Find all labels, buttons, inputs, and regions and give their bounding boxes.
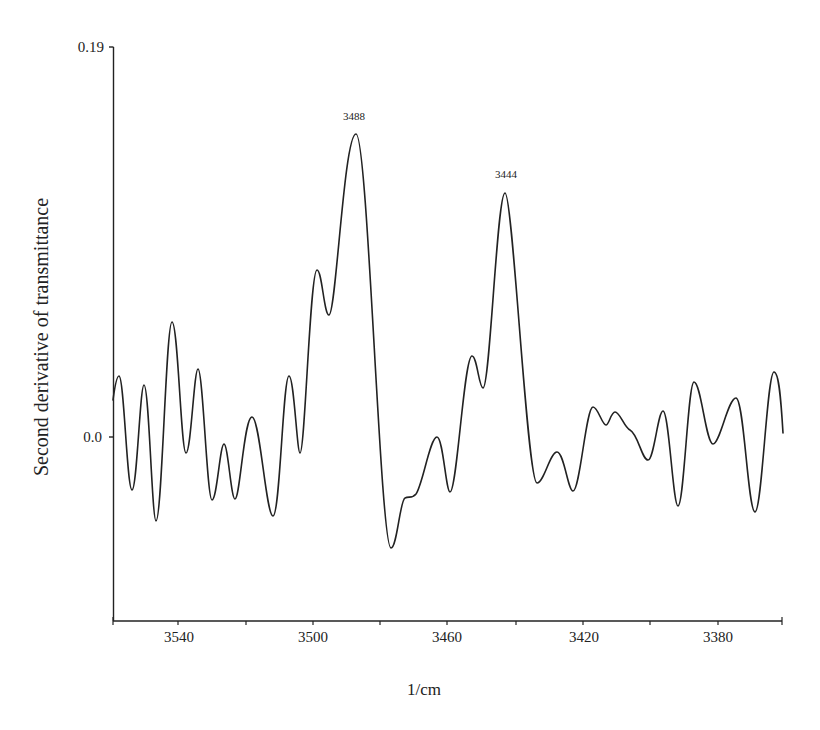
- x-tick-label: 3460: [432, 629, 462, 645]
- x-axis-title: 1/cm: [407, 680, 441, 699]
- y-axis-title: Second derivative of transmittance: [30, 198, 52, 476]
- y-tick-label-zero: 0.0: [83, 429, 102, 445]
- x-tick-label: 3540: [164, 629, 194, 645]
- y-axis: [109, 47, 114, 621]
- x-axis: [113, 617, 782, 625]
- peak-annotation-3488: 3488: [343, 110, 366, 122]
- x-tick-label: 3380: [703, 629, 733, 645]
- x-tick-label: 3420: [569, 629, 599, 645]
- peak-annotation-3444: 3444: [495, 168, 518, 180]
- spectrum-line: [113, 134, 783, 548]
- chart: 0.19 0.0 3540 3500 3460 3420 3380 1/cm S…: [0, 0, 820, 730]
- y-tick-label-top: 0.19: [78, 39, 104, 55]
- x-tick-label: 3500: [298, 629, 328, 645]
